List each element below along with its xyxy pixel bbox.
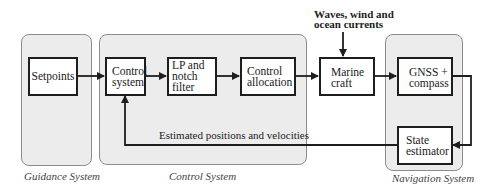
- control-system-label: Control system: [112, 66, 147, 88]
- control-allocation-block: Control allocation: [240, 57, 296, 96]
- state-estimator-label: State estimator: [406, 135, 449, 157]
- control-system-block: Control system: [105, 57, 146, 96]
- navigation-system-caption: Navigation System: [392, 172, 474, 184]
- lp-notch-filter-label: LP and notch filter: [172, 60, 215, 93]
- gnss-compass-label: GNSS + compass: [409, 67, 449, 89]
- gnss-compass-block: GNSS + compass: [397, 57, 453, 96]
- guidance-system-caption: Guidance System: [24, 170, 100, 182]
- marine-craft-block: Marine craft: [319, 57, 375, 96]
- setpoints-block: Setpoints: [28, 57, 78, 96]
- control-system-caption: Control System: [169, 170, 236, 182]
- control-allocation-label: Control allocation: [247, 66, 292, 88]
- setpoints-label: Setpoints: [32, 71, 75, 82]
- lp-notch-filter-block: LP and notch filter: [167, 57, 217, 96]
- disturbance-label: Waves, wind and ocean currents: [314, 9, 394, 29]
- state-estimator-block: State estimator: [397, 126, 453, 165]
- marine-craft-label: Marine craft: [331, 67, 364, 89]
- feedback-label: Estimated positions and velocities: [159, 129, 309, 141]
